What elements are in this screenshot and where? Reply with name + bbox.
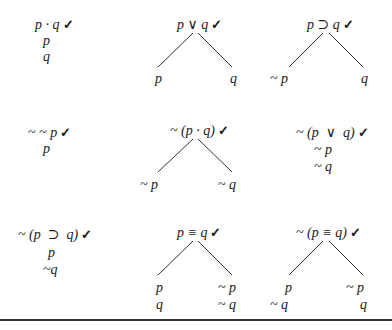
right-branch-line-1: ~ p <box>218 281 236 295</box>
left-branch-line-2: ~ q <box>270 298 288 312</box>
right-branch: q <box>361 72 368 86</box>
derived-line: ~ p <box>314 143 332 157</box>
derived-line: ~ q <box>314 160 332 174</box>
check-mark-icon: ✓ <box>358 125 369 140</box>
root-formula: ~ (p · q)✓ <box>170 124 229 138</box>
check-mark-icon: ✓ <box>81 227 92 242</box>
check-mark-icon: ✓ <box>350 225 361 240</box>
left-branch: ~ p <box>140 178 158 192</box>
derived-line: p <box>43 34 50 48</box>
check-mark-icon: ✓ <box>218 123 229 138</box>
right-branch-line-1: ~ p <box>346 281 364 295</box>
derived-line: q <box>43 50 50 64</box>
left-branch-line-1: p <box>156 281 163 295</box>
root-formula: p ⊃ q✓ <box>307 18 354 32</box>
bottom-divider <box>0 319 392 321</box>
check-mark-icon: ✓ <box>60 125 71 140</box>
root-formula: ~ (p ≡ q)✓ <box>296 226 361 240</box>
right-branch-line-2: ~ q <box>218 298 236 312</box>
left-branch-line-1: p <box>285 281 292 295</box>
root-formula: ~ (p ∨ q)✓ <box>296 126 369 140</box>
check-mark-icon: ✓ <box>210 225 221 240</box>
right-branch-line-2: q <box>360 298 367 312</box>
derived-line: ~q <box>43 263 58 277</box>
check-mark-icon: ✓ <box>343 17 354 32</box>
root-formula: ~ (p ⊃ q)✓ <box>18 228 92 242</box>
right-branch: q <box>230 72 237 86</box>
check-mark-icon: ✓ <box>211 17 222 32</box>
branch-lines <box>0 0 392 330</box>
left-branch: ~ p <box>270 72 288 86</box>
derived-line: p <box>43 142 50 156</box>
left-branch: p <box>155 72 162 86</box>
root-formula: p · q✓ <box>35 18 74 32</box>
derived-line: p <box>48 246 55 260</box>
check-mark-icon: ✓ <box>63 17 74 32</box>
root-formula: p ≡ q✓ <box>177 226 221 240</box>
root-formula: ~ ~ p✓ <box>28 126 71 140</box>
right-branch: ~ q <box>218 178 236 192</box>
left-branch-line-2: q <box>156 298 163 312</box>
root-formula: p ∨ q✓ <box>177 18 222 32</box>
